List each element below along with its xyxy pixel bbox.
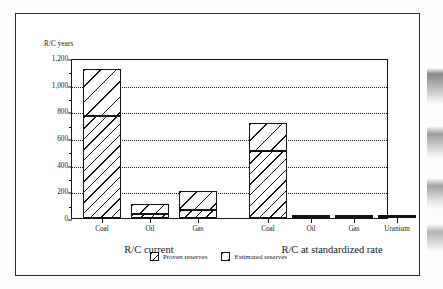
y-axis-title: R/C years [44, 40, 73, 48]
y-tick-minor [69, 127, 72, 128]
figure-frame: R/C years 1,2001,0008006004002000CoalOil… [15, 13, 420, 276]
y-tick-minor [69, 153, 72, 154]
bar-coal-group1 [249, 123, 287, 218]
bar-oil-group0 [131, 204, 169, 218]
legend-label-proven: Proven reserves [163, 253, 208, 261]
bar-segment-estimated [131, 204, 169, 214]
x-tick-mark [150, 218, 151, 223]
y-tick-label: 200 [57, 190, 68, 197]
bar-gas-group0 [179, 191, 217, 218]
y-tick-label: 1,200 [52, 56, 68, 63]
legend-item-proven: Proven reserves [150, 252, 208, 261]
x-category-label-coal-group1: Coal [261, 225, 275, 233]
x-category-label-gas-group0: Gas [192, 225, 203, 233]
scan-artifact-edge [427, 0, 443, 289]
legend-item-estimated: Estimated reserves [221, 252, 287, 261]
y-tick-label: 0 [64, 216, 68, 223]
x-category-label-gas-group1: Gas [348, 225, 359, 233]
plot-area: 1,2001,0008006004002000CoalOilGasCoalOil… [71, 59, 388, 219]
bar-segment-proven [83, 116, 121, 218]
legend-swatch-proven-icon [150, 252, 159, 261]
x-tick-mark [198, 218, 199, 223]
y-tick-mark [68, 86, 73, 87]
legend-label-estimated: Estimated reserves [234, 253, 287, 261]
bar-coal-group0 [83, 69, 121, 218]
y-tick-label: 600 [57, 136, 68, 143]
y-tick-label: 1,000 [52, 83, 68, 90]
x-tick-mark [397, 218, 398, 223]
bar-segment-proven [249, 151, 287, 218]
legend-swatch-estimated-icon [221, 252, 230, 261]
scanned-page: R/C years 1,2001,0008006004002000CoalOil… [0, 0, 443, 289]
chart-legend: Proven reserves Estimated reserves [16, 252, 421, 261]
x-tick-mark [354, 218, 355, 223]
bar-segment-estimated [179, 191, 217, 210]
y-tick-minor [69, 73, 72, 74]
y-tick-mark [68, 60, 73, 61]
x-tick-mark [268, 218, 269, 223]
bar-segment-estimated [249, 123, 287, 152]
y-tick-label: 400 [57, 163, 68, 170]
x-category-label-uranium-group1: Uranium [384, 225, 410, 233]
y-tick-label: 800 [57, 110, 68, 117]
bar-chart: R/C years 1,2001,0008006004002000CoalOil… [16, 14, 421, 277]
bar-segment-proven [179, 210, 217, 218]
x-tick-mark [311, 218, 312, 223]
x-tick-mark [102, 218, 103, 223]
y-tick-minor [69, 180, 72, 181]
y-tick-minor [69, 100, 72, 101]
bar-segment-estimated [83, 69, 121, 116]
y-tick-minor [69, 207, 72, 208]
x-category-label-oil-group1: Oil [306, 225, 315, 233]
x-category-label-oil-group0: Oil [145, 225, 154, 233]
x-category-label-coal-group0: Coal [95, 225, 109, 233]
